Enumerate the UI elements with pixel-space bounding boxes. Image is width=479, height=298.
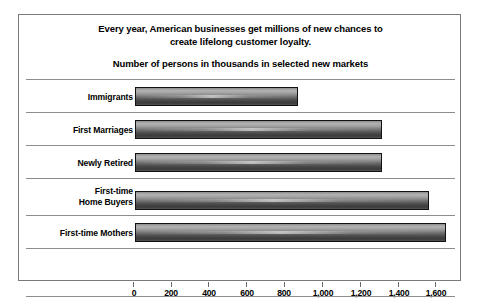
category-label-first-time-home-buyers: First-time Home Buyers — [79, 186, 133, 207]
axis-tick — [435, 282, 436, 287]
chart-subtitle: Number of persons in thousands in select… — [19, 58, 462, 69]
category-label-first-time-mothers: First-time Mothers — [60, 228, 133, 239]
bar-highlight-streak — [136, 95, 297, 97]
bar-newly-retired — [135, 153, 382, 172]
bar-first-marriages — [135, 120, 382, 139]
chart-title-line-1: Every year, American businesses get mill… — [19, 23, 462, 36]
bar-immigrants — [135, 87, 298, 106]
row-divider — [26, 178, 455, 179]
row-divider — [26, 215, 455, 216]
axis-tick — [171, 282, 172, 287]
row-divider — [26, 248, 455, 249]
row-divider — [26, 112, 455, 113]
axis-baseline — [26, 296, 455, 297]
chart-title-line-2: create lifelong customer loyalty. — [19, 36, 462, 49]
row-divider — [26, 145, 455, 146]
chart-title-block: Every year, American businesses get mill… — [19, 15, 462, 69]
axis-tick — [322, 282, 323, 287]
axis-tick — [360, 282, 361, 287]
bar-first-time-home-buyers — [135, 191, 429, 210]
bar-highlight-streak — [136, 231, 445, 233]
row-divider — [26, 79, 455, 80]
category-label-immigrants: Immigrants — [88, 92, 133, 103]
plot-area: Immigrants First Marriages Newly Retired… — [19, 79, 462, 282]
category-label-first-marriages: First Marriages — [73, 125, 133, 136]
bar-first-time-mothers — [135, 223, 446, 242]
bar-highlight-streak — [136, 128, 381, 130]
axis-tick — [398, 282, 399, 287]
axis-tick — [284, 282, 285, 287]
axis-tick — [208, 282, 209, 287]
category-label-newly-retired: Newly Retired — [77, 158, 133, 169]
axis-tick — [246, 282, 247, 287]
axis-tick — [133, 282, 134, 287]
bar-highlight-streak — [136, 161, 381, 163]
bar-highlight-streak — [136, 199, 428, 201]
chart-frame: Every year, American businesses get mill… — [18, 14, 461, 281]
